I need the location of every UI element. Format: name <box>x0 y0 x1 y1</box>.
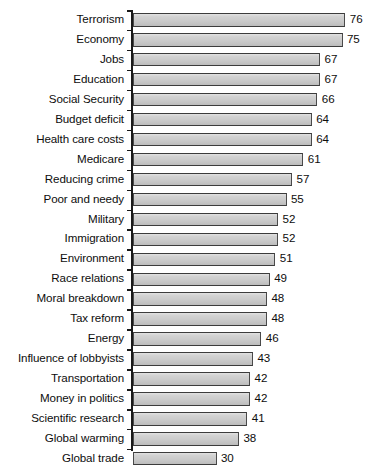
axis-tick <box>127 150 132 152</box>
axis-tick <box>127 309 132 311</box>
category-label: Tax reform <box>0 311 124 325</box>
bar-value-label: 61 <box>308 152 321 166</box>
bar-row: Tax reform48 <box>0 309 383 329</box>
bar-value-label: 66 <box>322 92 335 106</box>
bar <box>133 93 318 106</box>
bar <box>133 133 312 146</box>
bar-value-label: 67 <box>325 52 338 66</box>
bar-value-label: 42 <box>255 391 268 405</box>
bar-row: Global trade30 <box>0 449 383 469</box>
bar <box>133 312 267 325</box>
category-label: Transportation <box>0 371 124 385</box>
axis-tick <box>127 429 132 431</box>
axis-tick <box>127 249 132 251</box>
category-label: Reducing crime <box>0 172 124 186</box>
bar-row: Education67 <box>0 70 383 90</box>
axis-tick <box>127 170 132 172</box>
bar-value-label: 30 <box>221 451 234 465</box>
bar-value-label: 38 <box>243 431 256 445</box>
bar-row: Economy75 <box>0 30 383 50</box>
bar-row: Immigration52 <box>0 229 383 249</box>
axis-tick <box>127 50 132 52</box>
bar-row: Military52 <box>0 210 383 230</box>
category-label: Immigration <box>0 231 124 245</box>
bar-value-label: 42 <box>255 371 268 385</box>
axis-tick <box>127 449 132 451</box>
axis-tick <box>127 349 132 351</box>
bar-row: Poor and needy55 <box>0 190 383 210</box>
bar-value-label: 55 <box>291 192 304 206</box>
bar <box>133 193 287 206</box>
bar-row: Terrorism76 <box>0 10 383 30</box>
bar <box>133 173 293 186</box>
category-label: Race relations <box>0 271 124 285</box>
bar <box>133 113 312 126</box>
bar-value-label: 64 <box>316 112 329 126</box>
category-label: Influence of lobbyists <box>0 351 124 365</box>
bar <box>133 253 276 266</box>
bar <box>133 53 321 66</box>
bar-value-label: 76 <box>350 12 363 26</box>
bar-value-label: 43 <box>257 351 270 365</box>
bar-value-label: 75 <box>347 32 360 46</box>
bar-row: Social Security66 <box>0 90 383 110</box>
category-label: Terrorism <box>0 12 124 26</box>
axis-tick <box>127 10 132 12</box>
bar-value-label: 52 <box>283 231 296 245</box>
bar-row: Budget deficit64 <box>0 110 383 130</box>
axis-tick <box>127 210 132 212</box>
bar-row: Moral breakdown48 <box>0 289 383 309</box>
bar <box>133 332 262 345</box>
category-label: Military <box>0 212 124 226</box>
bar-value-label: 57 <box>297 172 310 186</box>
bar-row: Race relations49 <box>0 269 383 289</box>
bar <box>133 432 239 445</box>
bar <box>133 213 279 226</box>
bar-row: Medicare61 <box>0 150 383 170</box>
category-label: Global trade <box>0 451 124 465</box>
bar <box>133 452 217 465</box>
axis-tick <box>127 229 132 231</box>
bar-value-label: 46 <box>266 331 279 345</box>
bar-row: Transportation42 <box>0 369 383 389</box>
axis-tick <box>127 409 132 411</box>
bar-value-label: 41 <box>252 411 265 425</box>
bar <box>133 153 304 166</box>
bar-row: Energy46 <box>0 329 383 349</box>
bar <box>133 292 267 305</box>
axis-tick <box>127 329 132 331</box>
category-label: Health care costs <box>0 132 124 146</box>
bar-value-label: 49 <box>274 271 287 285</box>
bar <box>133 412 248 425</box>
category-label: Moral breakdown <box>0 291 124 305</box>
bar-row: Reducing crime57 <box>0 170 383 190</box>
axis-tick <box>127 110 132 112</box>
category-label: Budget deficit <box>0 112 124 126</box>
bar-value-label: 48 <box>271 291 284 305</box>
bar-row: Health care costs64 <box>0 130 383 150</box>
category-label: Social Security <box>0 92 124 106</box>
bar-row: Jobs67 <box>0 50 383 70</box>
category-label: Education <box>0 72 124 86</box>
axis-tick <box>127 130 132 132</box>
category-label: Money in politics <box>0 391 124 405</box>
bar-value-label: 67 <box>325 72 338 86</box>
bar <box>133 233 279 246</box>
bar <box>133 13 346 26</box>
bar-row: Environment51 <box>0 249 383 269</box>
category-label: Scientific research <box>0 411 124 425</box>
axis-tick <box>127 269 132 271</box>
axis-tick <box>127 190 132 192</box>
category-label: Poor and needy <box>0 192 124 206</box>
bar <box>133 372 251 385</box>
bar <box>133 273 270 286</box>
bar-value-label: 51 <box>280 251 293 265</box>
bar <box>133 392 251 405</box>
category-label: Energy <box>0 331 124 345</box>
axis-tick <box>127 389 132 391</box>
bar-value-label: 48 <box>271 311 284 325</box>
category-label: Economy <box>0 32 124 46</box>
axis-tick <box>127 289 132 291</box>
